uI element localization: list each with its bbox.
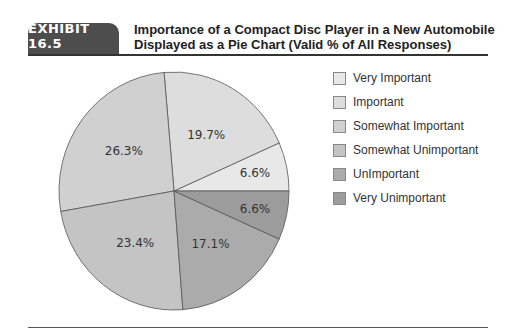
legend-item-somewhat-unimportant: Somewhat Unimportant	[333, 143, 478, 157]
bottom-rule	[28, 327, 488, 328]
legend-item-somewhat-important: Somewhat Important	[333, 119, 478, 133]
legend-item-unimportant: UnImportant	[333, 167, 478, 181]
legend-swatch	[333, 96, 346, 109]
legend-item-very-unimportant: Very Unimportant	[333, 191, 478, 205]
slice-label: 26.3%	[105, 144, 143, 158]
legend-swatch	[333, 72, 346, 85]
legend-item-very-important: Very Important	[333, 71, 478, 85]
slice-label: 17.1%	[191, 237, 229, 251]
legend-label: Somewhat Important	[353, 119, 464, 133]
legend-swatch	[333, 144, 346, 157]
legend-label: Very Important	[353, 71, 431, 85]
legend-swatch	[333, 192, 346, 205]
pie-slice	[61, 191, 183, 310]
slice-label: 6.6%	[240, 202, 271, 216]
pie-slice	[59, 72, 174, 211]
legend-label: Important	[353, 95, 404, 109]
slice-label: 23.4%	[116, 236, 154, 250]
legend-label: Very Unimportant	[353, 191, 446, 205]
pie-slices	[59, 72, 289, 310]
legend-swatch	[333, 168, 346, 181]
slice-label: 19.7%	[187, 128, 225, 142]
legend: Very Important Important Somewhat Import…	[333, 71, 478, 215]
slice-label: 6.6%	[240, 166, 271, 180]
legend-swatch	[333, 120, 346, 133]
legend-item-important: Important	[333, 95, 478, 109]
legend-label: UnImportant	[353, 167, 419, 181]
legend-label: Somewhat Unimportant	[353, 143, 478, 157]
